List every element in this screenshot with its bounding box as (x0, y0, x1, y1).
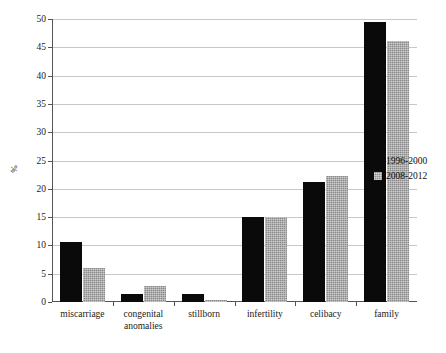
x-axis-tick-label: infertility (231, 308, 299, 320)
black-square-icon (374, 157, 382, 165)
y-axis-tick-label: 25 (20, 156, 46, 166)
y-axis-tick-label: 10 (20, 240, 46, 250)
x-axis-tick-mark (235, 302, 236, 306)
x-axis-tick-label-line: celibacy (292, 308, 360, 320)
legend-item-label: 1996-2000 (386, 156, 427, 166)
x-axis-tick-label-line: anomalies (109, 320, 177, 332)
x-axis-tick-label-line: infertility (231, 308, 299, 320)
bar (60, 242, 82, 302)
legend-item-label: 2008-2012 (386, 171, 427, 181)
bar (205, 300, 227, 302)
bar-group (121, 19, 166, 302)
bar (265, 217, 287, 302)
bar (242, 217, 264, 302)
bar (121, 294, 143, 302)
bar (144, 286, 166, 302)
bar (83, 268, 105, 302)
x-axis-tick-mark (356, 302, 357, 306)
x-axis-tick-label: stillborn (170, 308, 238, 320)
y-axis-tick-label: 45 (20, 42, 46, 52)
x-axis-tick-label: family (353, 308, 421, 320)
y-axis-tick-label: 5 (20, 269, 46, 279)
y-axis-tick-label: 0 (20, 297, 46, 307)
gray-square-icon (374, 172, 382, 180)
x-axis-tick-mark (113, 302, 114, 306)
x-axis-tick-label: miscarriage (48, 308, 116, 320)
bar-series-container (52, 19, 417, 302)
bar-chart-figure: % 05101520253035404550 miscarriagecongen… (0, 0, 446, 353)
x-axis-tick-label: congenitalanomalies (109, 308, 177, 332)
bar (182, 294, 204, 302)
y-axis-tick-mark (48, 302, 52, 303)
x-axis-tick-mark (174, 302, 175, 306)
x-axis-tick-label-line: congenital (109, 308, 177, 320)
legend-item[interactable]: 2008-2012 (374, 168, 427, 183)
bar-group (242, 19, 287, 302)
bar (326, 176, 348, 302)
x-axis-tick-label-line: family (353, 308, 421, 320)
y-axis-tick-label: 20 (20, 184, 46, 194)
legend-item[interactable]: 1996-2000 (374, 153, 427, 168)
bar-group (60, 19, 105, 302)
bar-group (303, 19, 348, 302)
x-axis-tick-label-line: miscarriage (48, 308, 116, 320)
x-axis-tick-mark (295, 302, 296, 306)
y-axis-tick-label: 50 (20, 14, 46, 24)
bar (303, 182, 325, 302)
chart-legend: 1996-2000 2008-2012 (374, 153, 427, 183)
y-axis-tick-label: 30 (20, 127, 46, 137)
y-axis-tick-label: 35 (20, 99, 46, 109)
y-axis-tick-label: 40 (20, 71, 46, 81)
x-axis-tick-label: celibacy (292, 308, 360, 320)
x-axis-tick-label-line: stillborn (170, 308, 238, 320)
y-axis-tick-label: 15 (20, 212, 46, 222)
bar-group (182, 19, 227, 302)
